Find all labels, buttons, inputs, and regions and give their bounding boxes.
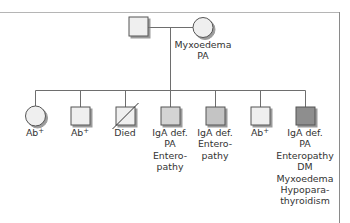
mother-label: Myxoedema PA [175,39,232,62]
child-6-label: Ab+ [251,127,269,138]
children-group [26,91,316,130]
child-7-label-line-6: Hypopara- [276,184,334,195]
child-2-male-square-symbol [71,107,90,125]
mother-label-line-2: PA [175,50,232,61]
child-4-label: IgA def. PA Entero- pathy [152,127,187,173]
child-5-label: IgA def. Entero- pathy [197,127,232,161]
child-7-label-line-4: DM [276,161,334,172]
child-7-label-line-2: PA [276,138,334,149]
child-5-male-square-symbol [206,107,225,125]
child-4-male-square-symbol [161,107,180,125]
child-6-label-line-1: Ab+ [251,127,269,138]
child-7-male-square-symbol [296,107,315,125]
child-1-label-line-1: Ab+ [26,127,44,138]
father-square-symbol [129,17,148,36]
mother-label-line-1: Myxoedema [175,39,232,50]
child-1-label: Ab+ [26,127,44,138]
child-3-label-line-1: Died [114,127,136,138]
child-7-label: IgA def. PA Enteropathy DM Myxoedema Hyp… [276,127,334,207]
child-6-male-square-symbol [251,107,270,125]
mother-circle-symbol [193,18,213,38]
child-5-label-line-3: pathy [197,150,232,161]
child-5-label-line-2: Entero- [197,138,232,149]
child-1-female-circle-symbol [26,106,46,126]
child-2-label-line-1: Ab+ [71,127,89,138]
child-4-label-line-4: pathy [152,161,187,172]
child-5-label-line-1: IgA def. [197,127,232,138]
child-2-label: Ab+ [71,127,89,138]
child-4-label-line-3: Entero- [152,150,187,161]
child-3-label: Died [114,127,136,138]
child-7-label-line-3: Enteropathy [276,150,334,161]
child-7-label-line-5: Myxoedema [276,173,334,184]
child-7-label-line-1: IgA def. [276,127,334,138]
child-4-label-line-2: PA [152,138,187,149]
child-7-label-line-7: thyroidism [276,195,334,206]
child-4-label-line-1: IgA def. [152,127,187,138]
